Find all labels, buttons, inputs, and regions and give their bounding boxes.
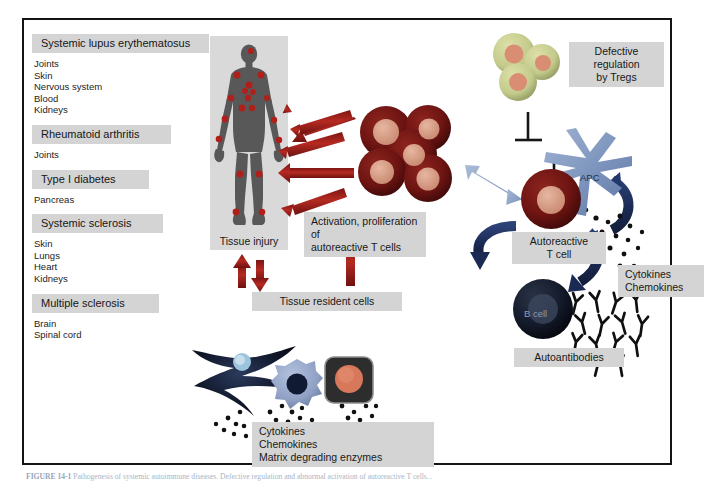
activation-label: Activation, proliferation of autoreactiv… (304, 212, 426, 257)
antibody-y-icon (615, 313, 630, 335)
red-arrows (278, 110, 356, 217)
double-arrow-tissue (233, 254, 269, 292)
organ-item: Skin (34, 70, 204, 82)
antibody-y-icon (595, 315, 609, 337)
cytokines-chemokines-label: Cytokines Chemokines (618, 265, 704, 297)
organ-item: Kidneys (34, 273, 204, 285)
disease-block-rheumatoid-arthritis: Rheumatoid arthritis Joints (32, 125, 204, 161)
organ-item: Brain (34, 318, 204, 330)
antibody-y-icon (575, 313, 590, 335)
disease-organs-type-i-diabetes: Pancreas (32, 189, 204, 206)
disease-block-multiple-sclerosis: Multiple sclerosis Brain Spinal cord (32, 294, 204, 341)
tissue-injury-panel: Tissue injury (210, 36, 288, 250)
organ-item: Joints (34, 149, 204, 161)
disease-organs-rheumatoid-arthritis: Joints (32, 144, 204, 161)
antibody-y-icon (630, 335, 643, 356)
disease-header-rheumatoid-arthritis: Rheumatoid arthritis (32, 125, 171, 144)
tissue-injury-label: Tissue injury (210, 235, 288, 247)
disease-block-type-i-diabetes: Type I diabetes Pancreas (32, 170, 204, 206)
t-cell-cluster-icon (356, 102, 462, 206)
disease-header-sle: Systemic lupus erythematosus (32, 34, 209, 53)
figure-canvas: Systemic lupus erythematosus Joints Skin… (24, 20, 670, 463)
arrow-tcell-to-bcell (479, 226, 517, 258)
human-body-icon (214, 42, 284, 230)
apc-label: APC (580, 172, 600, 183)
disease-organs-sle: Joints Skin Nervous system Blood Kidneys (32, 53, 204, 116)
cytokines-chemokines-matrix-label: Cytokines Chemokines Matrix degrading en… (252, 422, 434, 467)
organ-item: Spinal cord (34, 329, 204, 341)
autoreactive-t-cell-label: Autoreactive T cell (512, 232, 606, 264)
disease-header-type-i-diabetes: Type I diabetes (32, 170, 149, 189)
figure-caption-prefix: FIGURE 14-1 (26, 472, 71, 481)
organ-item: Lungs (34, 250, 204, 262)
treg-cluster-icon (490, 32, 564, 106)
autoreactive-t-cell-icon (520, 168, 582, 230)
organ-item: Skin (34, 238, 204, 250)
epithelial-cell-icon (324, 356, 374, 404)
macrophage-icon (270, 358, 324, 412)
b-cell-label: B cell (524, 308, 547, 319)
organ-item: Kidneys (34, 104, 204, 116)
disease-block-systemic-sclerosis: Systemic sclerosis Skin Lungs Heart Kidn… (32, 214, 204, 284)
defective-treg-label: Defective regulation by Tregs (569, 42, 664, 87)
antibody-y-icon (590, 291, 603, 312)
disease-list: Systemic lupus erythematosus Joints Skin… (32, 34, 204, 350)
tissue-resident-cells-label: Tissue resident cells (252, 292, 402, 311)
disease-header-systemic-sclerosis: Systemic sclerosis (32, 214, 163, 233)
disease-organs-multiple-sclerosis: Brain Spinal cord (32, 313, 204, 341)
autoantibodies-label: Autoantibodies (514, 348, 624, 367)
arrow-tcell-to-bcell-head (470, 252, 490, 270)
arrow-tcell-to-cluster (465, 165, 523, 205)
organ-item: Heart (34, 261, 204, 273)
figure-caption: FIGURE 14-1 Pathogenesis of systemic aut… (26, 472, 682, 481)
organ-item: Joints (34, 58, 204, 70)
disease-organs-systemic-sclerosis: Skin Lungs Heart Kidneys (32, 233, 204, 284)
figure-frame: Systemic lupus erythematosus Joints Skin… (22, 18, 672, 465)
organ-item: Nervous system (34, 81, 204, 93)
organ-item: Pancreas (34, 194, 204, 206)
figure-caption-text: Pathogenesis of systemic autoimmune dise… (71, 472, 432, 481)
treg-inhibition-icon (515, 112, 542, 140)
disease-header-multiple-sclerosis: Multiple sclerosis (32, 294, 159, 313)
disease-block-sle: Systemic lupus erythematosus Joints Skin… (32, 34, 204, 116)
antibody-y-icon (635, 315, 648, 336)
organ-item: Blood (34, 93, 204, 105)
